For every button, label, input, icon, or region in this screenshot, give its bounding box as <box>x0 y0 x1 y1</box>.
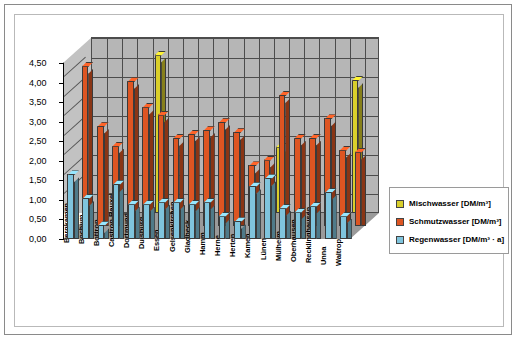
legend-swatch-schmutzwasser <box>396 218 404 226</box>
y-tick <box>59 83 64 84</box>
bar-side <box>104 129 109 226</box>
bar <box>279 208 286 239</box>
bar <box>219 216 226 239</box>
bar-side <box>316 209 321 239</box>
bar-face <box>264 178 271 239</box>
y-tick-label: 2,00 <box>29 157 47 166</box>
legend-swatch-regenwasser <box>396 236 404 244</box>
bar-side <box>119 187 124 239</box>
bar-side <box>74 177 79 239</box>
bar <box>67 174 74 239</box>
bar-face <box>279 208 286 239</box>
bar-side <box>361 155 366 226</box>
bar-face <box>173 202 180 239</box>
bar <box>82 198 89 239</box>
bar-face <box>340 216 347 239</box>
bar-side <box>240 135 245 226</box>
bar-side <box>301 141 306 226</box>
bar-face <box>234 221 241 239</box>
chart-legend: Mischwasser [DM/m³] Schmutzwasser [DM/m³… <box>389 187 509 254</box>
bar <box>98 225 105 239</box>
bar-face <box>310 206 317 239</box>
bar-face <box>158 202 165 239</box>
y-tick <box>59 161 64 162</box>
legend-swatch-mischwasser <box>396 200 404 208</box>
bar-face <box>204 202 211 239</box>
bar <box>173 202 180 239</box>
bar <box>355 152 362 226</box>
y-tick-label: 1,00 <box>29 196 47 205</box>
y-tick <box>59 180 64 181</box>
y-tick-label: 2,50 <box>29 137 47 146</box>
bar <box>189 204 196 239</box>
bar-face <box>97 126 104 226</box>
bar <box>264 178 271 239</box>
bar-face <box>189 204 196 239</box>
x-axis-labels: BergkamenBochumBottropCastrop-RauxelDort… <box>63 239 393 335</box>
bar <box>143 204 150 239</box>
x-axis-label: Unna <box>319 246 328 264</box>
y-tick-label: 4,00 <box>29 79 47 88</box>
y-tick <box>59 63 64 64</box>
bar-side <box>89 201 94 239</box>
y-tick-label: 4,50 <box>29 59 47 68</box>
bar-side <box>332 195 337 239</box>
legend-item-mischwasser: Mischwasser [DM/m³] <box>396 199 503 208</box>
bar <box>128 204 135 239</box>
bar-side <box>256 189 261 239</box>
bar-side <box>135 207 140 239</box>
y-tick <box>59 141 64 142</box>
bar <box>325 192 332 239</box>
x-axis-label: Waltrop <box>334 239 343 266</box>
bar-face <box>67 174 74 239</box>
bar <box>340 216 347 239</box>
legend-label-mischwasser: Mischwasser [DM/m³] <box>409 199 491 208</box>
bar-face <box>143 204 150 239</box>
bar-face <box>355 152 362 226</box>
bar-face <box>128 204 135 239</box>
bar-face <box>325 192 332 239</box>
y-tick-label: 0,00 <box>29 235 47 244</box>
y-tick <box>59 102 64 103</box>
bar <box>113 184 120 239</box>
bar-side <box>180 205 185 239</box>
bar-face <box>98 225 105 239</box>
bar <box>158 202 165 239</box>
bar <box>310 206 317 239</box>
bar-face <box>113 184 120 239</box>
legend-label-regenwasser: Regenwasser [DM/m³ · a] <box>409 235 504 244</box>
bar-side <box>165 205 170 239</box>
bar-face <box>218 122 225 226</box>
bar <box>218 122 225 226</box>
legend-label-schmutzwasser: Schmutzwasser [DM/m³] <box>409 217 501 226</box>
y-tick-label: 0,50 <box>29 215 47 224</box>
bar <box>249 186 256 239</box>
bar <box>204 202 211 239</box>
bar-side <box>150 207 155 239</box>
bar <box>233 132 240 226</box>
bar-face <box>233 132 240 226</box>
chart-frame: 0,000,501,001,502,002,503,003,504,004,50… <box>4 4 512 335</box>
x-axis-label: Lünen <box>259 238 268 260</box>
bar-side <box>195 207 200 239</box>
bar <box>295 212 302 239</box>
bar-side <box>271 181 276 239</box>
bar-face <box>219 216 226 239</box>
y-tick-label: 1,50 <box>29 176 47 185</box>
y-tick <box>59 200 64 201</box>
bar-side <box>225 125 230 226</box>
y-tick-label: 3,50 <box>29 98 47 107</box>
bar-face <box>295 212 302 239</box>
bar-face <box>82 198 89 239</box>
y-tick <box>59 122 64 123</box>
y-tick-label: 3,00 <box>29 118 47 127</box>
bar-side <box>210 205 215 239</box>
legend-item-schmutzwasser: Schmutzwasser [DM/m³] <box>396 217 503 226</box>
bar <box>97 126 104 226</box>
bar-face <box>249 186 256 239</box>
legend-item-regenwasser: Regenwasser [DM/m³ · a] <box>396 235 503 244</box>
bar <box>234 221 241 239</box>
chart-inner-border: 0,000,501,001,502,002,503,003,504,004,50… <box>14 14 504 327</box>
